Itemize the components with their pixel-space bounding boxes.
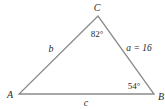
vertex-label-c: C: [94, 2, 101, 13]
side-label-c: c: [84, 97, 89, 108]
angle-label-b: 54°: [128, 81, 141, 91]
vertex-label-a: A: [6, 89, 14, 100]
triangle-diagram: C A B b a = 16 c 82° 54°: [0, 0, 165, 109]
angle-label-c: 82°: [91, 29, 104, 39]
vertex-label-b: B: [158, 91, 164, 102]
side-label-b: b: [49, 43, 54, 54]
side-label-a: a = 16: [126, 43, 152, 53]
